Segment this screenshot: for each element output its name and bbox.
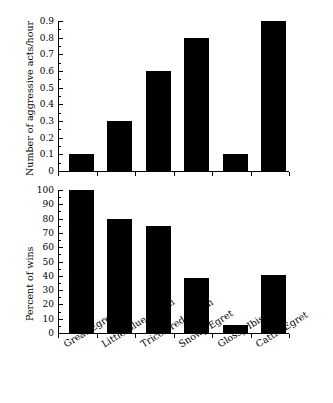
x-tick-bottom: [251, 334, 252, 338]
x-tick-top: [289, 172, 290, 176]
x-tick-top: [135, 172, 136, 176]
bar-great-egret: [69, 190, 94, 333]
y-tick-label: 0: [30, 167, 54, 176]
y-tick-top: [59, 171, 63, 172]
bar-glossy-ibis: [223, 154, 248, 171]
x-tick-bottom: [174, 334, 175, 338]
y-tick-label: 0.3: [30, 117, 54, 126]
x-tick-bottom: [289, 334, 290, 338]
y-tick-label: 30: [26, 286, 54, 295]
bar-tricolored-heron: [146, 71, 171, 171]
y-tick-label: 0.8: [30, 34, 54, 43]
x-tick-bottom: [58, 334, 59, 338]
y-tick-label: 80: [26, 215, 54, 224]
x-tick-top: [251, 172, 252, 176]
x-tick-top: [58, 172, 59, 176]
panel-percent-wins: Percent of wins 100 90 80 70 60 50 40 30…: [0, 186, 333, 403]
x-tick-top: [97, 172, 98, 176]
x-tick-bottom: [97, 334, 98, 338]
bar-cattle-egret: [261, 21, 286, 171]
x-tick-top: [174, 172, 175, 176]
panel-aggressive-acts: Number of aggressive acts/hour 0.9 0.8 0…: [0, 0, 333, 186]
plot-area-bottom: [58, 190, 289, 333]
y-tick-label: 0.5: [30, 84, 54, 93]
y-tick-label: 50: [26, 258, 54, 267]
y-tick-label: 0.2: [30, 134, 54, 143]
bar-great-egret: [69, 154, 94, 171]
y-tick-label: 60: [26, 243, 54, 252]
y-tick-label: 20: [26, 300, 54, 309]
y-tick-label: 0.7: [30, 50, 54, 59]
x-tick-bottom: [135, 334, 136, 338]
y-tick-bottom: [59, 333, 63, 334]
bar-little-blue-heron: [107, 121, 132, 171]
figure-bar-charts: Number of aggressive acts/hour 0.9 0.8 0…: [0, 0, 333, 403]
y-tick-label: 0: [26, 329, 54, 338]
y-tick-label: 0.9: [30, 17, 54, 26]
y-tick-label: 70: [26, 229, 54, 238]
y-tick-label: 0.6: [30, 67, 54, 76]
y-tick-label: 0.1: [30, 150, 54, 159]
y-tick-label: 10: [26, 315, 54, 324]
y-tick-label: 90: [26, 200, 54, 209]
plot-area-top: [58, 21, 289, 171]
bar-snowy-egret: [184, 38, 209, 171]
x-tick-top: [212, 172, 213, 176]
x-tick-bottom: [212, 334, 213, 338]
y-tick-label: 100: [26, 186, 54, 195]
y-tick-label: 40: [26, 272, 54, 281]
y-tick-label: 0.4: [30, 100, 54, 109]
